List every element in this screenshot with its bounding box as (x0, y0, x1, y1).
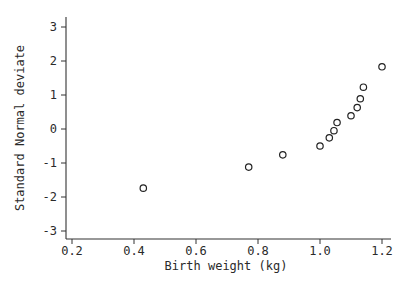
data-point-marker (360, 84, 366, 90)
data-point-marker (354, 104, 360, 110)
data-point-marker (331, 128, 337, 134)
data-points (140, 64, 385, 192)
y-tick-label: 2 (50, 54, 57, 68)
y-axis-title: Standard Normal deviate (13, 45, 27, 211)
data-point-marker (140, 185, 146, 191)
data-point-marker (326, 135, 332, 141)
y-tick-label: -1 (43, 156, 57, 170)
data-point-marker (246, 164, 252, 170)
data-point-marker (348, 113, 354, 119)
x-tick-label: 0.8 (247, 244, 269, 258)
data-point-marker (379, 64, 385, 70)
data-point-marker (317, 143, 323, 149)
data-point-marker (334, 119, 340, 125)
data-point-marker (357, 96, 363, 102)
y-tick-label: 0 (50, 122, 57, 136)
data-point-marker (280, 152, 286, 158)
x-tick-label: 1.0 (309, 244, 331, 258)
y-tick-label: -3 (43, 224, 57, 238)
y-tick-label: 1 (50, 88, 57, 102)
x-tick-label: 1.2 (371, 244, 393, 258)
x-axis-title: Birth weight (kg) (165, 259, 288, 273)
x-tick-label: 0.2 (61, 244, 83, 258)
x-axis: 0.20.40.60.81.01.2 (61, 239, 393, 258)
x-tick-label: 0.4 (123, 244, 145, 258)
y-tick-label: -2 (43, 190, 57, 204)
x-tick-label: 0.6 (185, 244, 207, 258)
y-axis: -3-2-10123 (43, 17, 66, 239)
y-tick-label: 3 (50, 20, 57, 34)
probability-plot: -3-2-10123 0.20.40.60.81.01.2 Birth weig… (0, 0, 408, 286)
